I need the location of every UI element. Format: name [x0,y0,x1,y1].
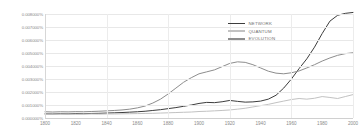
gridline-horizontal [45,79,353,80]
y-axis-tick-label: 0.002000% [22,90,43,95]
x-axis-tick-label: 2000 [348,121,358,126]
gridline-horizontal [45,66,353,67]
y-axis-tick-label: 0.008000% [22,12,43,17]
y-axis-line [45,14,46,119]
x-axis-tick-label: 1920 [225,121,235,126]
legend-item-evolution[interactable]: EVOLUTION [228,36,275,41]
legend-swatch-icon [228,30,245,32]
y-axis-tick-label: 0.007000% [22,25,43,30]
legend-swatch-icon [228,23,245,25]
chart-legend: NETWORKQUANTUMEVOLUTION [228,21,275,41]
x-axis: 1800182018401860188019001920194019601980… [0,121,361,133]
legend-swatch-icon [228,38,245,40]
x-axis-tick-label: 1800 [40,121,50,126]
gridline-horizontal [45,14,353,15]
gridline-vertical [107,14,108,118]
y-axis-tick-label: 0.000000% [22,116,43,121]
y-axis-tick-label: 0.003000% [22,77,43,82]
x-axis-tick-label: 1960 [286,121,296,126]
gridline-horizontal [45,92,353,93]
x-axis-tick-label: 1820 [71,121,81,126]
x-axis-tick-label: 1900 [194,121,204,126]
plot-area [45,14,353,118]
gridline-vertical [353,14,354,118]
gridline-horizontal [45,40,353,41]
x-axis-tick-label: 1940 [255,121,265,126]
y-axis-tick-label: 0.005000% [22,51,43,56]
y-axis-tick-label: 0.004000% [22,64,43,69]
y-axis-tick-label: 0.006000% [22,38,43,43]
legend-item-network[interactable]: NETWORK [228,21,275,26]
ngram-chart: 0.000000%0.001000%0.002000%0.003000%0.00… [0,0,361,140]
x-axis-line [45,118,353,119]
y-axis-tick-label: 0.001000% [22,103,43,108]
legend-item-quantum[interactable]: QUANTUM [228,29,275,34]
y-axis: 0.000000%0.001000%0.002000%0.003000%0.00… [0,0,43,140]
x-axis-tick-label: 1860 [132,121,142,126]
gridline-vertical [291,14,292,118]
gridline-horizontal [45,27,353,28]
legend-label: EVOLUTION [249,36,276,41]
x-axis-tick-label: 1980 [317,121,327,126]
legend-label: QUANTUM [249,29,272,34]
gridline-horizontal [45,53,353,54]
x-axis-tick-label: 1880 [163,121,173,126]
gridline-horizontal [45,105,353,106]
legend-label: NETWORK [249,21,273,26]
x-axis-tick-label: 1840 [101,121,111,126]
gridline-vertical [168,14,169,118]
